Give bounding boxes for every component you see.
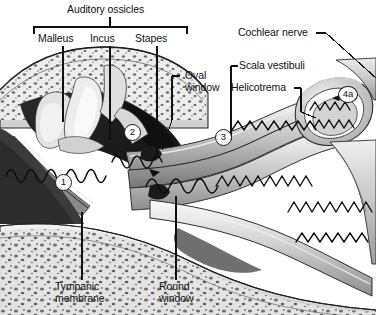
label-tympanic-membrane-line2: membrane (55, 293, 104, 305)
label-round-window-line1: Round (159, 281, 189, 293)
label-auditory-ossicles: Auditory ossicles (67, 4, 144, 16)
marker-3: 3 (215, 129, 232, 146)
marker-1: 1 (55, 174, 72, 191)
label-tympanic-membrane-line1: Tympanic (55, 281, 99, 293)
label-stapes: Stapes (135, 33, 167, 45)
label-helicotrema: Helicotrema (231, 82, 286, 94)
figure-canvas: Auditory ossicles Malleus Incus Stapes C… (0, 0, 376, 315)
marker-2: 2 (124, 124, 141, 141)
label-incus: Incus (90, 33, 115, 45)
label-scala-vestibuli: Scala vestibuli (239, 60, 305, 72)
label-cochlear-nerve: Cochlear nerve (238, 27, 308, 39)
cochlea-illustration (0, 0, 376, 315)
label-oval-window-line1: Oval (185, 70, 206, 82)
label-malleus: Malleus (38, 33, 73, 45)
label-oval-window-line2: window (185, 82, 219, 94)
label-round-window-line2: window (159, 293, 193, 305)
marker-4a: 4a (338, 86, 358, 103)
